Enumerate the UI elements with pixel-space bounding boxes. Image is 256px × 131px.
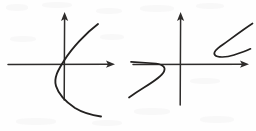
- upper-right-hook-curve: [214, 24, 252, 58]
- graphs-canvas: [0, 0, 256, 131]
- right-graph-axes: [133, 12, 249, 105]
- right-graph-panel: [129, 12, 253, 105]
- left-parabola-curve: [55, 24, 101, 117]
- lower-left-hook-curve: [129, 62, 165, 98]
- left-graph-panel: [8, 12, 115, 117]
- left-graph-axes: [8, 12, 115, 100]
- figure-root: Two sketched graphs: on the left a parab…: [0, 0, 256, 131]
